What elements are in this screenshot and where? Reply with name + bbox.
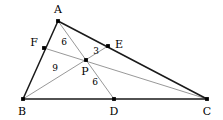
segment-length-PD: 6	[92, 78, 98, 87]
vertex-label-D: D	[110, 106, 119, 117]
side-line-AC	[58, 21, 207, 99]
triangle-diagram-canvas	[0, 0, 223, 120]
point-marker-F	[42, 46, 46, 50]
vertex-label-C: C	[203, 106, 211, 117]
point-marker-D	[112, 97, 116, 101]
point-marker-P	[84, 58, 88, 62]
cevian-group	[23, 21, 207, 99]
segment-length-BP: 9	[52, 64, 58, 73]
point-marker-C	[205, 97, 209, 101]
geometry-figure: A B C D E F P 6 3 9 6	[0, 0, 223, 120]
point-marker-B	[21, 97, 25, 101]
vertex-label-B: B	[18, 106, 26, 117]
segment-length-PE: 3	[93, 47, 99, 56]
side-line-AB	[23, 21, 58, 99]
vertex-label-P: P	[81, 66, 88, 77]
triangle-outline-group	[23, 21, 207, 99]
vertex-label-F: F	[30, 37, 38, 48]
point-marker-group	[21, 19, 209, 101]
vertex-label-A: A	[54, 4, 62, 15]
point-marker-E	[106, 44, 110, 48]
point-marker-A	[56, 19, 60, 23]
segment-length-AP: 6	[61, 38, 67, 47]
vertex-label-E: E	[115, 39, 123, 50]
